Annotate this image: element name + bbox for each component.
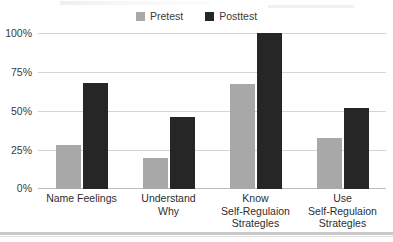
bar-pretest-2 (230, 84, 255, 189)
x-axis-label-0: Name Feelings (38, 192, 125, 230)
square-swatch-icon (205, 12, 214, 21)
square-swatch-icon (136, 12, 145, 21)
legend-label-posttest: Posttest (219, 11, 257, 22)
bar-pretest-0 (56, 145, 81, 189)
x-axis-label-3: UseSelf-RegulaionStrategles (299, 192, 386, 230)
x-axis-label-1: UnderstandWhy (125, 192, 212, 230)
legend-label-pretest: Pretest (150, 11, 183, 22)
y-axis-tick-100: 100% (5, 27, 32, 39)
bar-posttest-1 (170, 117, 195, 189)
page-edge-artifact (60, 1, 210, 5)
bar-group-use-self-regulation-strategies (299, 33, 386, 189)
x-axis-label-2: KnowSelf-RegulaionStrategles (212, 192, 299, 230)
y-axis-tick-25: 25% (11, 144, 32, 156)
bar-groups (38, 33, 386, 189)
y-axis-tick-75: 75% (11, 66, 32, 78)
y-axis-tick-0: 0% (17, 182, 32, 194)
bar-posttest-3 (344, 108, 369, 189)
bar-posttest-0 (83, 83, 108, 189)
page-edge-artifact-secondary (268, 5, 354, 8)
plot-area: 100% 75% 50% 25% 0% (38, 33, 386, 189)
chart-legend: Pretest Posttest (0, 11, 393, 22)
bar-group-know-self-regulation-strategies (212, 33, 299, 189)
bar-group-understand-why (125, 33, 212, 189)
bar-group-name-feelings (38, 33, 125, 189)
bar-posttest-2 (257, 33, 282, 189)
bar-pretest-1 (143, 158, 168, 189)
bar-chart: Pretest Posttest 100% 75% 50% 25% 0% (0, 0, 393, 242)
legend-item-pretest: Pretest (136, 11, 183, 22)
y-axis-tick-50: 50% (11, 105, 32, 117)
legend-item-posttest: Posttest (205, 11, 257, 22)
footer-rule-secondary (0, 236, 393, 237)
x-axis-labels: Name Feelings UnderstandWhy KnowSelf-Reg… (38, 192, 386, 230)
bar-pretest-3 (317, 138, 342, 189)
footer-rule (0, 232, 393, 235)
